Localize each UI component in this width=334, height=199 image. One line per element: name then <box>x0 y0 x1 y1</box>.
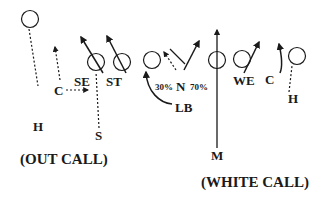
route-n-70 <box>184 41 199 70</box>
label-pct-30: 30% <box>155 83 173 92</box>
label-we: WE <box>233 74 255 87</box>
route-h-left <box>29 29 38 86</box>
label-h-right: H <box>288 92 298 105</box>
label-s: S <box>95 129 102 142</box>
label-pct-70: 70% <box>190 83 208 92</box>
route-st <box>107 36 126 73</box>
label-se: SE <box>74 75 90 88</box>
player-circle-h-right <box>289 48 306 65</box>
player-circle-st <box>114 54 131 71</box>
play-diagram: H C SE ST S 30% N 70% WE C H LB M (OUT C… <box>0 0 334 199</box>
label-white-call: (WHITE CALL) <box>201 175 309 190</box>
route-we <box>244 42 259 73</box>
route-c-right <box>279 44 282 73</box>
label-h-left: H <box>33 120 43 133</box>
label-st: ST <box>106 75 122 88</box>
route-h-right <box>289 66 292 92</box>
route-c-left-up <box>55 47 60 80</box>
route-s <box>96 72 99 128</box>
play-diagram-lines <box>0 0 334 199</box>
route-n-30 <box>164 52 176 70</box>
label-out-call: (OUT CALL) <box>20 152 108 167</box>
label-m: M <box>211 149 223 162</box>
label-c-left: C <box>54 84 63 97</box>
label-c-right: C <box>265 73 274 86</box>
label-n: N <box>176 80 185 93</box>
player-circle-h-left <box>22 11 39 28</box>
player-circle-lb <box>144 52 161 69</box>
route-n-x <box>170 49 185 64</box>
label-lb: LB <box>175 101 192 114</box>
